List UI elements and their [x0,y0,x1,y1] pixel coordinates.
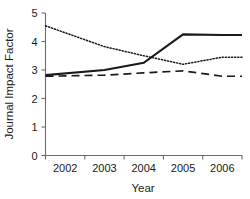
x-tick-label: 2006 [210,162,234,174]
series-group [46,26,243,76]
x-axis: 20022003200420052006 [46,156,243,174]
x-axis-title: Year [131,182,154,194]
y-tick-label: 4 [31,36,37,48]
y-axis-title: Journal Impact Factor [3,28,15,139]
y-tick-label: 0 [31,150,37,162]
series-solid [46,34,243,75]
y-tick-label: 5 [31,7,37,19]
x-tick-label: 2003 [92,162,116,174]
series-dotted [46,26,243,64]
chart-figure: 012345 20022003200420052006 Journal Impa… [0,0,250,199]
x-tick-label: 2004 [132,162,156,174]
x-tick-group: 20022003200420052006 [46,156,243,174]
x-tick-label: 2005 [171,162,195,174]
y-tick-group: 012345 [31,7,45,162]
y-tick-label: 2 [31,93,37,105]
y-tick-label: 3 [31,64,37,76]
y-tick-label: 1 [31,121,37,133]
y-axis: 012345 [31,7,45,162]
line-chart: 012345 20022003200420052006 Journal Impa… [0,0,250,199]
x-tick-label: 2002 [53,162,77,174]
